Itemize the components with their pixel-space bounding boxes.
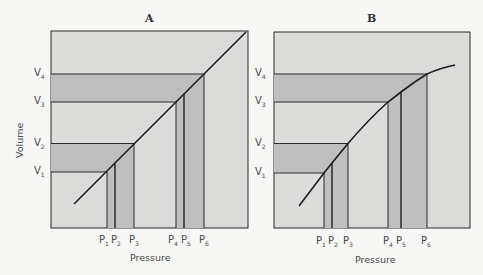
panel-b-plot — [274, 32, 470, 228]
p2-label-a: P2 — [111, 234, 121, 247]
panel-a-title: A — [145, 12, 154, 25]
p3-label-b: P3 — [343, 235, 353, 248]
panel-a-plot — [51, 31, 248, 228]
v2-label-a: V2 — [34, 137, 45, 150]
pressure-volume-diagram — [0, 0, 483, 275]
v1-label-b: V1 — [255, 166, 266, 179]
p4-label-a: P4 — [168, 234, 178, 247]
v4-label-b: V4 — [255, 67, 266, 80]
x-axis-label-a: Pressure — [130, 252, 171, 263]
p1-label-b: P1 — [316, 235, 326, 248]
p3-label-a: P3 — [129, 234, 139, 247]
v3-label-b: V3 — [255, 95, 266, 108]
x-axis-label-b: Pressure — [355, 254, 396, 265]
v4-label-a: V4 — [34, 67, 45, 80]
p4-label-b: P4 — [383, 235, 393, 248]
v1-label-a: V1 — [34, 165, 45, 178]
p1-label-a: P1 — [99, 234, 109, 247]
p2-label-b: P2 — [328, 235, 338, 248]
p5-label-b: P5 — [396, 235, 406, 248]
v2-label-b: V2 — [255, 137, 266, 150]
p5-label-a: P5 — [181, 234, 191, 247]
panel-b-title: B — [367, 12, 376, 25]
v3-label-a: V3 — [34, 95, 45, 108]
p6-label-a: P6 — [199, 234, 209, 247]
p6-label-b: P6 — [421, 235, 431, 248]
y-axis-label: Volume — [14, 123, 25, 158]
